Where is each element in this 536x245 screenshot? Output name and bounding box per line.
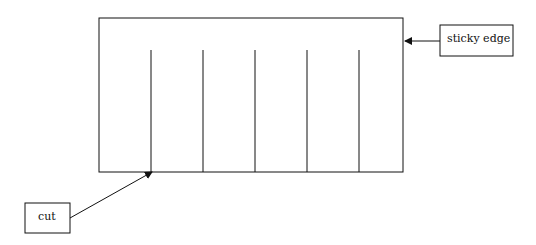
cut-arrow bbox=[70, 172, 152, 218]
sheet-rectangle bbox=[99, 18, 403, 172]
cut-lines bbox=[151, 50, 359, 172]
sticky-edge-label: sticky edge bbox=[447, 32, 510, 45]
cut-label: cut bbox=[38, 210, 56, 223]
